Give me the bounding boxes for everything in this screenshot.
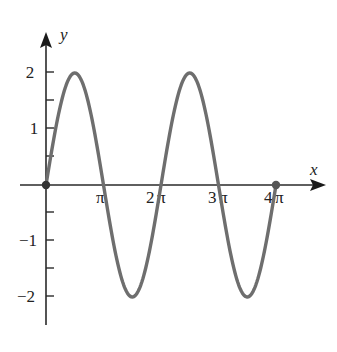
end-point: [272, 181, 280, 189]
y-tick-label-1: 1: [30, 119, 39, 138]
y-tick-label-2: 2: [26, 63, 35, 82]
svg-text:3: 3: [208, 188, 217, 207]
y-axis-label: y: [58, 25, 68, 44]
svg-text:2: 2: [146, 188, 155, 207]
y-tick-label-neg1: −1: [19, 231, 37, 250]
y-tick-label-neg2: −2: [17, 287, 35, 306]
start-point: [42, 181, 50, 189]
x-axis-label: x: [309, 160, 318, 179]
x-tick-label-2pi: 2 π: [146, 188, 166, 207]
sine-chart: 2 1 −1 −2 y x π 2 π 3 π 4 π: [0, 0, 337, 352]
